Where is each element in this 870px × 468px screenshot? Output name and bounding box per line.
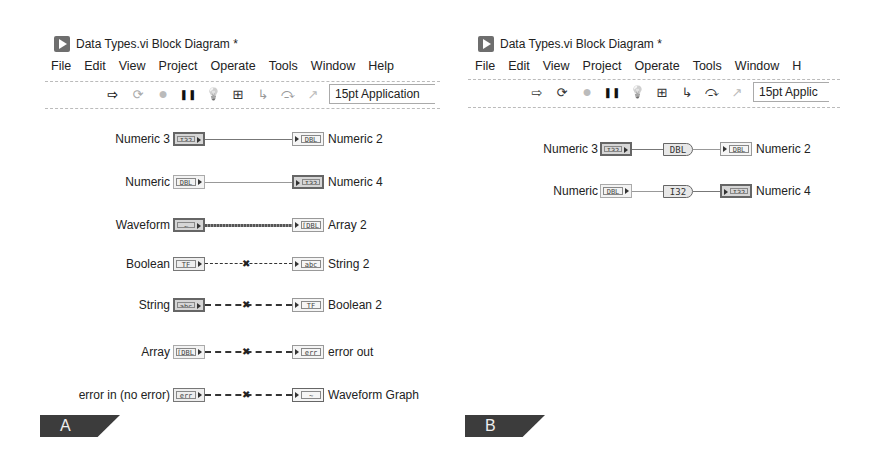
- source-label: Boolean: [60, 256, 170, 272]
- dest-label: error out: [328, 344, 373, 360]
- indicator-terminal-string[interactable]: abc: [292, 257, 324, 271]
- pause-icon[interactable]: ❚❚: [179, 85, 197, 103]
- control-terminal-i32[interactable]: I32: [600, 142, 632, 156]
- vi-icon: [54, 36, 70, 52]
- run-continuously-icon[interactable]: ⟳: [129, 85, 147, 103]
- window-title: Data Types.vi Block Diagram *: [76, 37, 238, 51]
- indicator-terminal-waveform-graph[interactable]: ~: [292, 388, 324, 402]
- control-terminal-array[interactable]: [DBL]: [173, 345, 205, 359]
- wire[interactable]: [632, 149, 664, 150]
- step-into-icon[interactable]: ↳: [678, 83, 696, 101]
- panel-b: Data Types.vi Block Diagram * File Edit …: [450, 0, 870, 468]
- indicator-terminal-dbl[interactable]: DBL: [720, 142, 752, 156]
- control-terminal-dbl[interactable]: DBL: [173, 175, 205, 189]
- indicator-terminal-error[interactable]: err: [292, 345, 324, 359]
- source-label: Waveform: [60, 217, 170, 233]
- menu-project[interactable]: Project: [583, 59, 622, 77]
- dest-label: Waveform Graph: [328, 387, 419, 403]
- abort-icon[interactable]: ●: [154, 85, 172, 103]
- dest-label: Numeric 2: [756, 141, 811, 157]
- menu-view[interactable]: View: [119, 59, 146, 77]
- indicator-terminal-dbl[interactable]: DBL: [292, 132, 324, 146]
- menu-help[interactable]: H: [792, 59, 801, 77]
- dest-label: Numeric 4: [756, 183, 811, 199]
- source-label: Numeric 3: [490, 141, 598, 157]
- pause-icon[interactable]: ❚❚: [603, 83, 621, 101]
- window-title: Data Types.vi Block Diagram *: [500, 37, 662, 51]
- panel-a: Data Types.vi Block Diagram * File Edit …: [0, 0, 450, 468]
- source-label: error in (no error): [40, 387, 170, 403]
- run-arrow-icon[interactable]: ⇨: [104, 85, 122, 103]
- source-label: Numeric 3: [60, 131, 170, 147]
- control-terminal-string[interactable]: abc: [173, 298, 205, 312]
- menu-window[interactable]: Window: [735, 59, 779, 77]
- toolbar: ⇨ ⟳ ● ❚❚ 💡 ⊞ ↳ ⤼ ↗ 15pt Application: [104, 83, 435, 105]
- dest-label: Boolean 2: [328, 297, 382, 313]
- menu-separator: [468, 79, 840, 80]
- toolbar-separator: [468, 107, 840, 108]
- highlight-execution-icon[interactable]: 💡: [204, 85, 222, 103]
- broken-wire-icon: ✖: [242, 300, 250, 310]
- menu-tools[interactable]: Tools: [269, 59, 298, 77]
- control-terminal-dbl[interactable]: DBL: [600, 184, 632, 198]
- indicator-terminal-array[interactable]: [DBL]: [292, 218, 324, 232]
- step-over-icon[interactable]: ⤼: [279, 85, 297, 103]
- dest-label: Array 2: [328, 217, 367, 233]
- step-into-icon[interactable]: ↳: [254, 85, 272, 103]
- run-continuously-icon[interactable]: ⟳: [553, 83, 571, 101]
- toolbar: ⇨ ⟳ ● ❚❚ 💡 ⊞ ↳ ⤼ ↗ 15pt Applic: [528, 81, 829, 103]
- step-out-icon[interactable]: ↗: [304, 85, 322, 103]
- run-arrow-icon[interactable]: ⇨: [528, 83, 546, 101]
- panel-label-b: B: [465, 415, 545, 437]
- vi-icon: [478, 36, 494, 52]
- menu-bar: File Edit View Project Operate Tools Win…: [475, 59, 840, 77]
- menu-separator: [45, 81, 440, 82]
- menu-tools[interactable]: Tools: [693, 59, 722, 77]
- menu-bar: File Edit View Project Operate Tools Win…: [51, 59, 441, 77]
- control-terminal-boolean[interactable]: TF: [173, 257, 205, 271]
- highlight-execution-icon[interactable]: 💡: [628, 83, 646, 101]
- wire[interactable]: [693, 149, 720, 150]
- indicator-terminal-i32[interactable]: I32: [720, 184, 752, 198]
- broken-wire-icon: ✖: [242, 347, 250, 357]
- window-title-bar: Data Types.vi Block Diagram *: [54, 34, 238, 54]
- wire[interactable]: [205, 139, 292, 140]
- control-terminal-error[interactable]: err: [173, 388, 205, 402]
- menu-project[interactable]: Project: [159, 59, 198, 77]
- control-terminal-i32[interactable]: I32: [173, 132, 205, 146]
- indicator-terminal-boolean[interactable]: TF: [292, 298, 324, 312]
- retain-wire-values-icon[interactable]: ⊞: [653, 83, 671, 101]
- font-selector[interactable]: 15pt Applic: [753, 82, 829, 102]
- menu-edit[interactable]: Edit: [508, 59, 530, 77]
- panel-label-a: A: [40, 415, 120, 437]
- wire[interactable]: [693, 191, 720, 192]
- source-label: Array: [60, 344, 170, 360]
- menu-view[interactable]: View: [543, 59, 570, 77]
- retain-wire-values-icon[interactable]: ⊞: [229, 85, 247, 103]
- control-terminal-waveform[interactable]: ~: [173, 218, 205, 232]
- menu-edit[interactable]: Edit: [84, 59, 106, 77]
- step-out-icon[interactable]: ↗: [728, 83, 746, 101]
- dest-label: Numeric 2: [328, 131, 383, 147]
- dest-label: Numeric 4: [328, 174, 383, 190]
- source-label: String: [60, 297, 170, 313]
- broken-wire-icon: ✖: [242, 390, 250, 400]
- waveform-wire[interactable]: [205, 224, 292, 227]
- indicator-terminal-i32[interactable]: I32: [292, 175, 324, 189]
- menu-file[interactable]: File: [475, 59, 495, 77]
- to-double-conversion-node[interactable]: DBL: [663, 143, 693, 156]
- window-title-bar: Data Types.vi Block Diagram *: [478, 34, 662, 54]
- to-i32-conversion-node[interactable]: I32: [663, 185, 693, 198]
- abort-icon[interactable]: ●: [578, 83, 596, 101]
- step-over-icon[interactable]: ⤼: [703, 83, 721, 101]
- menu-file[interactable]: File: [51, 59, 71, 77]
- wire[interactable]: [632, 191, 664, 192]
- menu-operate[interactable]: Operate: [634, 59, 679, 77]
- broken-wire-icon: ✖: [242, 259, 250, 269]
- menu-help[interactable]: Help: [368, 59, 394, 77]
- wire[interactable]: [205, 182, 292, 183]
- menu-operate[interactable]: Operate: [210, 59, 255, 77]
- font-selector[interactable]: 15pt Application: [329, 84, 435, 104]
- toolbar-separator: [45, 108, 440, 109]
- menu-window[interactable]: Window: [311, 59, 355, 77]
